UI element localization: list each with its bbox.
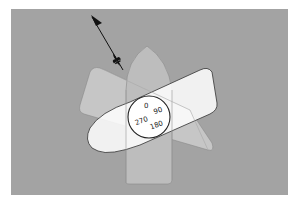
- compass-ring: [128, 96, 170, 138]
- compass-label-0: 0: [144, 102, 148, 110]
- boat-orientation-diagram: 0 90 180 270: [0, 0, 298, 206]
